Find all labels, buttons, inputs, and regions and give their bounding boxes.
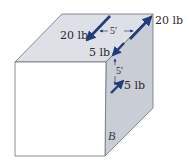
force-label-5lb-corner: 5 lb — [89, 46, 110, 59]
point-label-b: B — [108, 129, 116, 143]
cube-front-face — [15, 62, 106, 156]
dimension-label-horizontal: 5′ — [110, 25, 117, 36]
force-label-5lb-side: 5 lb — [124, 79, 145, 92]
dimension-label-vertical: 5′ — [116, 65, 123, 76]
force-label-20lb-left: 20 lb — [60, 29, 88, 42]
force-label-20lb-right: 20 lb — [155, 14, 183, 27]
cube-force-diagram: 5′ 5′ 20 lb 20 lb 5 lb 5 lb B — [0, 0, 189, 165]
